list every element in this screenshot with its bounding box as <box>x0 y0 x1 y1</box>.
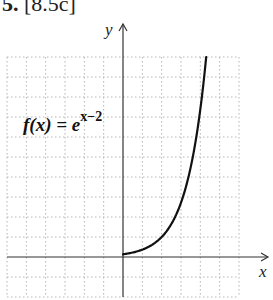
function-label: f(x) = ex−2 <box>23 112 102 136</box>
function-lhs: f(x) = e <box>23 114 80 135</box>
y-axis-label: y <box>105 20 113 40</box>
x-axis-label: x <box>259 262 267 282</box>
function-curve <box>123 57 206 254</box>
graph <box>0 0 273 300</box>
function-exponent: x−2 <box>80 109 102 124</box>
